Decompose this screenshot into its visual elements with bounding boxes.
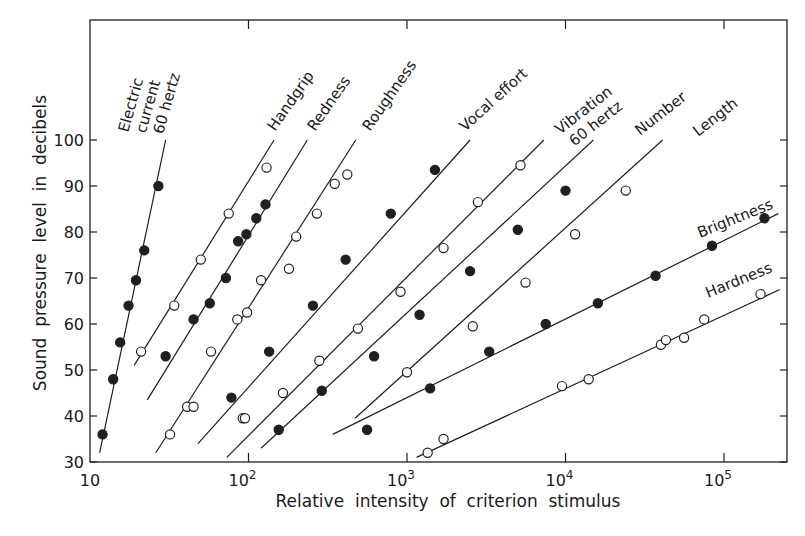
filled-marker <box>98 430 107 439</box>
fit-line <box>417 290 780 458</box>
open-marker <box>756 290 765 299</box>
open-marker <box>224 209 233 218</box>
filled-marker <box>308 301 317 310</box>
filled-marker <box>161 352 170 361</box>
open-marker <box>557 382 566 391</box>
series-brightness: Brightness <box>333 195 779 434</box>
filled-marker <box>189 315 198 324</box>
filled-marker <box>426 384 435 393</box>
filled-marker <box>341 255 350 264</box>
fit-line <box>261 140 593 448</box>
filled-marker <box>593 299 602 308</box>
open-marker <box>661 336 670 345</box>
series-label: Vibration60 hertz <box>551 82 627 152</box>
filled-marker <box>651 271 660 280</box>
y-axis-label: Sound pressure level in decibels <box>30 95 50 391</box>
series-redness: Redness <box>147 72 354 400</box>
open-marker <box>315 356 324 365</box>
filled-marker <box>386 209 395 218</box>
filled-marker <box>369 352 378 361</box>
open-marker <box>402 368 411 377</box>
open-marker <box>621 186 630 195</box>
open-marker <box>423 448 432 457</box>
filled-marker <box>109 375 118 384</box>
series-label: Length <box>689 94 741 140</box>
x-axis-label: Relative intensity of criterion stimulus <box>276 491 621 511</box>
open-marker <box>136 347 145 356</box>
filled-marker <box>430 165 439 174</box>
open-marker <box>343 170 352 179</box>
series-length: Length <box>355 94 741 418</box>
filled-marker <box>154 181 163 190</box>
filled-marker <box>227 393 236 402</box>
open-marker <box>312 209 321 218</box>
y-tick-label: 90 <box>64 177 84 196</box>
y-tick-label: 80 <box>64 223 84 242</box>
filled-marker <box>131 276 140 285</box>
open-marker <box>196 255 205 264</box>
y-axis: 30405060708090100 <box>53 131 787 472</box>
series-label: Roughness <box>359 57 421 135</box>
y-tick-label: 50 <box>64 361 84 380</box>
fit-line <box>147 140 307 400</box>
series-label: Number <box>631 87 690 139</box>
y-tick-label: 70 <box>64 269 84 288</box>
open-marker <box>278 388 287 397</box>
open-marker <box>284 264 293 273</box>
x-tick-label: 103 <box>387 468 415 490</box>
filled-marker <box>485 347 494 356</box>
open-marker <box>353 324 362 333</box>
filled-marker <box>116 338 125 347</box>
filled-marker <box>261 200 270 209</box>
fit-line <box>134 140 274 365</box>
y-tick-label: 100 <box>53 131 84 150</box>
series-number: Number <box>261 87 691 448</box>
x-tick-label: 104 <box>546 468 574 490</box>
open-marker <box>292 232 301 241</box>
series-label: Vocal effort <box>456 64 532 135</box>
data-series: Electriccurrent60 hertzHandgripRednessRo… <box>98 57 780 458</box>
open-marker <box>240 414 249 423</box>
open-marker <box>439 244 448 253</box>
x-tick-label: 102 <box>229 468 257 490</box>
filled-marker <box>362 425 371 434</box>
open-marker <box>439 434 448 443</box>
open-marker <box>256 276 265 285</box>
filled-marker <box>265 347 274 356</box>
y-tick-label: 60 <box>64 315 84 334</box>
filled-marker <box>465 267 474 276</box>
x-tick-label: 10 <box>80 471 100 490</box>
series-electric-current-60-hertz: Electriccurrent60 hertz <box>98 61 184 453</box>
filled-marker <box>124 301 133 310</box>
plot-frame <box>90 20 787 462</box>
y-tick-label: 30 <box>64 453 84 472</box>
open-marker <box>170 301 179 310</box>
filled-marker <box>707 241 716 250</box>
fit-line <box>227 140 544 457</box>
filled-marker <box>541 319 550 328</box>
open-marker <box>521 278 530 287</box>
open-marker <box>468 322 477 331</box>
filled-marker <box>317 386 326 395</box>
open-marker <box>571 230 580 239</box>
x-tick-label: 105 <box>704 468 732 490</box>
series-hardness: Hardness <box>417 259 780 458</box>
open-marker <box>679 333 688 342</box>
psychophysics-chart: 30405060708090100 10102103104105 Electri… <box>0 0 805 536</box>
open-marker <box>206 347 215 356</box>
filled-marker <box>513 225 522 234</box>
open-marker <box>189 402 198 411</box>
open-marker <box>330 179 339 188</box>
open-marker <box>165 430 174 439</box>
filled-marker <box>205 299 214 308</box>
open-marker <box>243 308 252 317</box>
open-marker <box>516 161 525 170</box>
filled-marker <box>242 230 251 239</box>
open-marker <box>584 375 593 384</box>
filled-marker <box>561 186 570 195</box>
filled-marker <box>221 273 230 282</box>
open-marker <box>396 287 405 296</box>
series-label: Electriccurrent60 hertz <box>115 61 184 143</box>
filled-marker <box>140 246 149 255</box>
filled-marker <box>274 425 283 434</box>
